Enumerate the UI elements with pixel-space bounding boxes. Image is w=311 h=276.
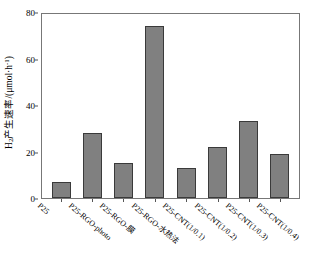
y-axis-tick-mark [35, 106, 38, 107]
plot-area [41, 13, 300, 199]
bars-container [42, 14, 299, 198]
y-axis-tick-label: 80 [26, 8, 35, 18]
bar-slot [139, 14, 170, 198]
y-axis-title-h: H [4, 142, 14, 149]
bar [114, 163, 133, 198]
bar [83, 133, 102, 198]
y-axis-title-mid: 产生速率/(μmol·h [4, 65, 14, 139]
bar [239, 121, 258, 198]
y-axis-title-superscript: -1 [3, 59, 11, 65]
y-axis-title: H2产生速率/(μmol·h-1) [4, 56, 15, 149]
bar [177, 168, 196, 198]
y-axis-tick-mark [35, 199, 38, 200]
y-axis-tick-column: 020406080 [14, 0, 38, 205]
x-axis-labels: P25P25-RGO-photoP25-RGO-膜P25-RGO-水热法P25-… [41, 202, 300, 276]
bar [208, 147, 227, 198]
bar [52, 182, 71, 198]
bar-slot [46, 14, 77, 198]
bar-slot [108, 14, 139, 198]
bar-slot [233, 14, 264, 198]
y-axis-tick-label: 60 [26, 55, 35, 65]
x-axis-tick-label: P25 [36, 202, 51, 216]
bar-chart-figure: H2产生速率/(μmol·h-1) 020406080 P25P25-RGO-p… [0, 0, 311, 276]
y-axis-tick-mark [35, 152, 38, 153]
y-axis-title-close: ) [4, 56, 14, 59]
bar [270, 154, 289, 198]
y-axis-tick-mark [35, 59, 38, 60]
bar [145, 26, 164, 198]
bar-slot [202, 14, 233, 198]
bar-slot [171, 14, 202, 198]
bar-slot [77, 14, 108, 198]
bar-slot [264, 14, 295, 198]
y-axis-tick-label: 20 [26, 148, 35, 158]
y-axis-tick-label: 40 [26, 101, 35, 111]
y-axis-tick-mark [35, 13, 38, 14]
